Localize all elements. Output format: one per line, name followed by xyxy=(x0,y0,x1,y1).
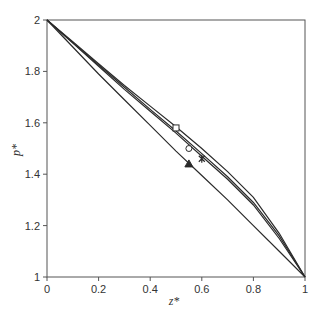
x-tick-label: 0 xyxy=(44,283,50,295)
y-tick-label: 1.4 xyxy=(25,168,40,180)
x-tick-label: 0.2 xyxy=(91,283,106,295)
y-axis-ticks: 11.21.41.61.82 xyxy=(25,14,47,283)
x-axis-title: z* xyxy=(168,294,180,308)
x-tick-label: 0.4 xyxy=(143,283,158,295)
y-tick-label: 1.8 xyxy=(25,65,40,77)
curve-triangle-line xyxy=(47,20,305,277)
y-tick-label: 1 xyxy=(34,271,40,283)
y-tick-label: 2 xyxy=(34,14,40,26)
series-layer xyxy=(47,20,305,277)
marker-layer xyxy=(173,125,205,167)
x-tick-label: 0.6 xyxy=(194,283,209,295)
square-marker-icon xyxy=(173,125,179,131)
y-axis-title: p* xyxy=(9,144,23,157)
circle-marker-icon xyxy=(186,146,192,152)
x-tick-label: 0.8 xyxy=(246,283,261,295)
chart: 00.20.40.60.81 11.21.41.61.82 z* p* xyxy=(0,0,318,315)
x-tick-label: 1 xyxy=(302,283,308,295)
y-tick-label: 1.6 xyxy=(25,117,40,129)
y-tick-label: 1.2 xyxy=(25,220,40,232)
x-axis-ticks: 00.20.40.60.81 xyxy=(44,277,308,295)
